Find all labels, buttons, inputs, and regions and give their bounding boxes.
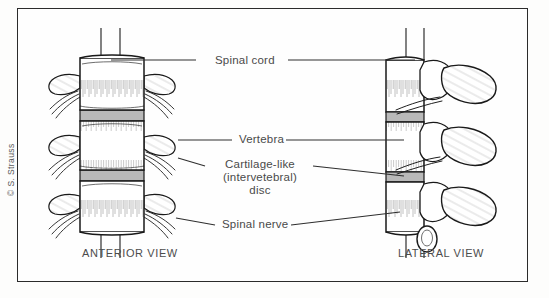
label-disc-line2: (intervetebral) [212, 171, 308, 184]
label-disc-line1: Cartilage-like [212, 158, 308, 171]
spine-anatomy-figure: Spinal cord Vertebra Cartilage-like (int… [0, 0, 549, 298]
artist-credit: © S. Strauss [6, 143, 16, 196]
label-intervertebral-disc: Cartilage-like (intervetebral) disc [212, 158, 308, 197]
caption-lateral-view: LATERAL VIEW [398, 247, 484, 259]
caption-anterior-view: ANTERIOR VIEW [82, 247, 178, 259]
label-spinal-cord: Spinal cord [215, 54, 275, 68]
label-spinal-nerve: Spinal nerve [222, 218, 288, 232]
label-disc-line3: disc [212, 184, 308, 197]
label-vertebra: Vertebra [239, 133, 284, 147]
